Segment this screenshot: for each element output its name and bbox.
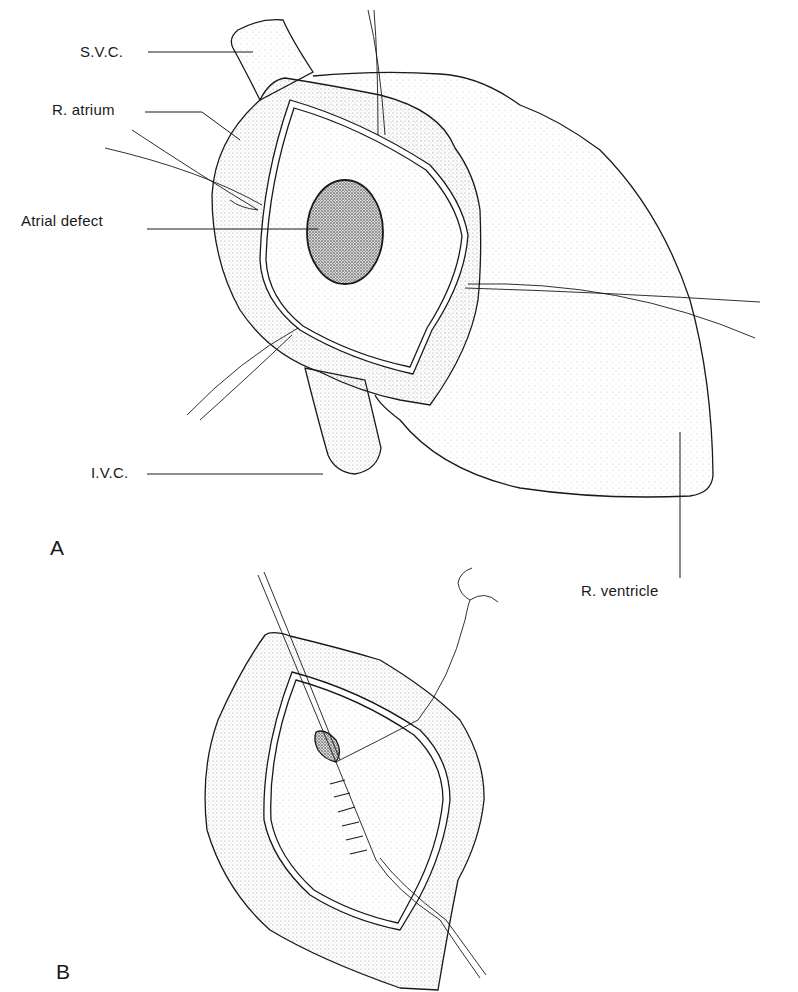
r-atrium-leader: [145, 112, 240, 140]
label-ivc: I.V.C.: [91, 464, 128, 481]
label-r-ventricle: R. ventricle: [581, 582, 658, 599]
label-atrial-defect: Atrial defect: [21, 212, 103, 229]
illustration: [0, 0, 798, 992]
label-r-atrium: R. atrium: [52, 101, 115, 118]
atrial-defect: [307, 180, 383, 284]
panel-letter-a: A: [50, 536, 64, 560]
panel-b-drawing: [205, 568, 498, 990]
panel-a-drawing: [105, 10, 760, 578]
label-svc: S.V.C.: [80, 43, 123, 60]
panel-letter-b: B: [56, 960, 70, 984]
